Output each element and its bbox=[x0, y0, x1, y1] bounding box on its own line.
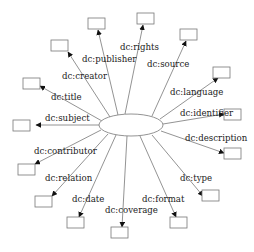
value-node-source bbox=[180, 29, 197, 40]
value-node-publisher bbox=[88, 18, 105, 29]
value-node-coverage bbox=[111, 227, 128, 238]
value-node-contributor bbox=[18, 164, 35, 175]
edge-label-creator: dc:creator bbox=[62, 71, 108, 81]
value-node-title bbox=[23, 78, 40, 89]
value-node-language bbox=[213, 67, 230, 78]
edge-source bbox=[152, 41, 186, 116]
edge-label-language: dc:language bbox=[170, 87, 223, 97]
dublin-core-star-diagram: dc:rightsdc:publisherdc:sourcedc:creator… bbox=[0, 0, 254, 252]
edge-label-relation: dc:relation bbox=[45, 173, 93, 183]
edge-label-subject: dc:subject bbox=[45, 113, 90, 123]
value-node-type bbox=[202, 190, 219, 201]
edge-rights bbox=[125, 25, 143, 114]
edge-relation bbox=[52, 134, 108, 196]
edge-label-title: dc:title bbox=[51, 92, 82, 102]
edge-label-contributor: dc:contributor bbox=[34, 146, 98, 156]
value-node-rights bbox=[137, 13, 154, 24]
value-node-description bbox=[224, 148, 241, 159]
value-node-format bbox=[170, 217, 187, 228]
value-node-relation bbox=[35, 196, 52, 207]
value-node-subject bbox=[13, 120, 30, 131]
edge-label-format: dc:format bbox=[142, 194, 185, 204]
central-resource-node bbox=[99, 114, 163, 136]
edge-label-coverage: dc:coverage bbox=[105, 205, 158, 215]
edge-label-publisher: dc:publisher bbox=[82, 54, 137, 64]
edge-label-description: dc:description bbox=[185, 133, 248, 143]
edge-type bbox=[152, 135, 203, 196]
edge-label-type: dc:type bbox=[180, 173, 212, 183]
value-node-date bbox=[67, 217, 84, 228]
edge-label-date: dc:date bbox=[72, 194, 104, 204]
edge-label-rights: dc:rights bbox=[120, 42, 159, 52]
edge-label-identifier: dc:identifier bbox=[180, 108, 234, 118]
value-node-creator bbox=[51, 40, 68, 51]
edge-label-source: dc:source bbox=[147, 59, 189, 69]
